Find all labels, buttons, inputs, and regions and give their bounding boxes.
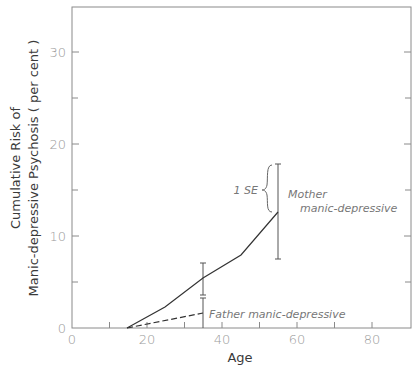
y-tick-0: 0 [58, 321, 66, 336]
father-label: Father manic-depressive [209, 308, 346, 321]
mother-label-line2: manic-depressive [300, 202, 398, 215]
se-brace-icon [262, 165, 272, 212]
y-tick-10: 10 [49, 229, 66, 244]
x-tick-20: 20 [139, 332, 156, 347]
y-axis-title-line1: Cumulative Risk of [8, 107, 23, 229]
x-axis-ticks [110, 322, 373, 328]
se-label: 1 SE [234, 184, 258, 197]
chart: 30 20 10 0 0 20 40 60 80 Age Cumulative … [0, 0, 417, 367]
y-axis-ticks [72, 52, 411, 282]
x-tick-60: 60 [289, 332, 306, 347]
y-axis-title-line2: Manic-depressive Psychosis ( per cent ) [26, 40, 41, 297]
x-axis-title: Age [227, 350, 252, 365]
x-tick-40: 40 [214, 332, 231, 347]
x-tick-80: 80 [364, 332, 381, 347]
y-tick-30: 30 [49, 45, 66, 60]
father-series-line [127, 313, 203, 328]
x-tick-0: 0 [68, 332, 76, 347]
y-tick-20: 20 [49, 137, 66, 152]
plot-frame [72, 7, 411, 328]
mother-label-line1: Mother [288, 188, 328, 201]
